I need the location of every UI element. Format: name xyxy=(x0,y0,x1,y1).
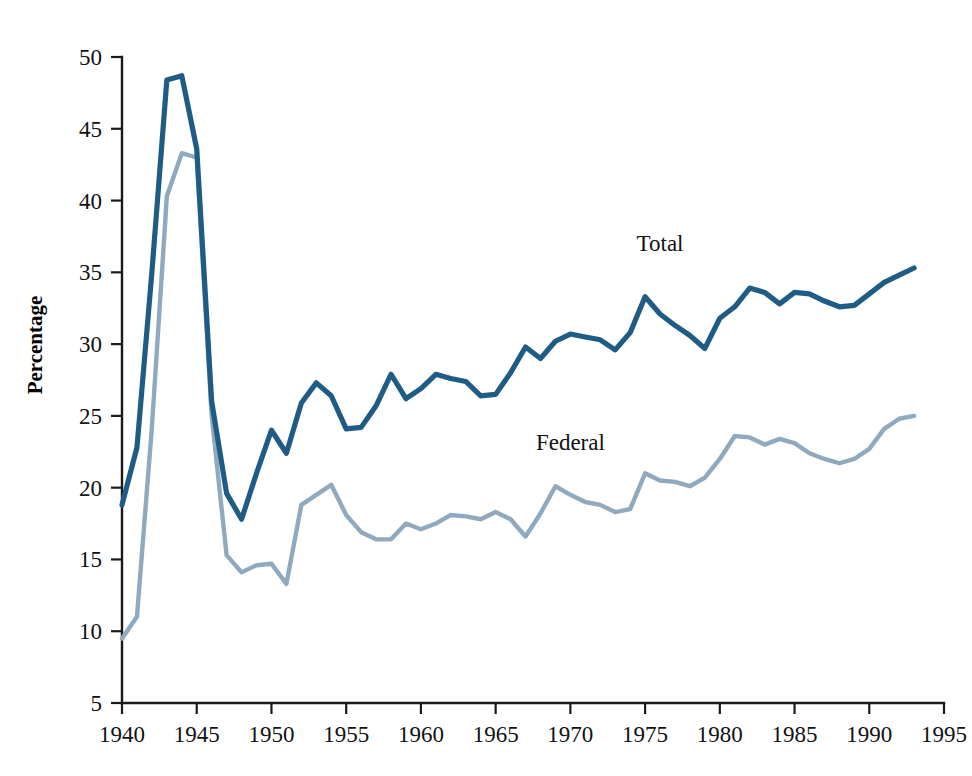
y-tick-label: 35 xyxy=(79,260,102,285)
x-tick-label: 1960 xyxy=(398,722,444,747)
y-tick-label: 20 xyxy=(79,476,102,501)
x-tick-label: 1950 xyxy=(248,722,294,747)
x-tick-label: 1940 xyxy=(99,722,145,747)
y-tick-label: 40 xyxy=(79,189,102,214)
y-tick-label: 15 xyxy=(79,547,102,572)
y-tick-label: 5 xyxy=(91,691,103,716)
line-chart: Percentage 5101520253035404550 194019451… xyxy=(0,0,972,776)
y-tick-label: 30 xyxy=(79,332,102,357)
chart-background xyxy=(0,0,972,776)
x-tick-label: 1980 xyxy=(697,722,743,747)
x-tick-label: 1955 xyxy=(323,722,369,747)
x-tick-label: 1970 xyxy=(547,722,593,747)
x-tick-label: 1990 xyxy=(846,722,892,747)
x-tick-label: 1975 xyxy=(622,722,668,747)
y-tick-label: 50 xyxy=(79,45,102,70)
x-tick-label: 1965 xyxy=(473,722,519,747)
chart-container: Percentage 5101520253035404550 194019451… xyxy=(0,0,972,776)
y-axis-title: Percentage xyxy=(23,296,47,395)
x-tick-label: 1985 xyxy=(772,722,818,747)
series-label-total: Total xyxy=(637,231,684,256)
x-tick-label: 1945 xyxy=(174,722,220,747)
series-label-federal: Federal xyxy=(536,430,605,455)
y-tick-label: 25 xyxy=(79,404,102,429)
y-tick-label: 10 xyxy=(79,619,102,644)
y-tick-label: 45 xyxy=(79,117,102,142)
x-tick-label: 1995 xyxy=(921,722,967,747)
y-axis-title-text: Percentage xyxy=(23,296,47,395)
